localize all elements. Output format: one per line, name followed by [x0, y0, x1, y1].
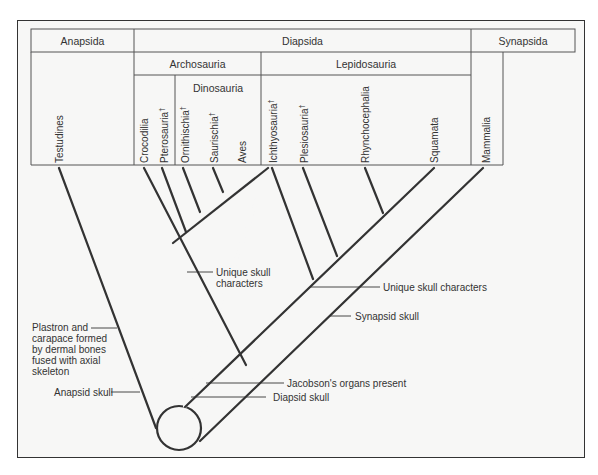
taxon-rhynchocephalia: Rhynchocephalia: [360, 86, 371, 163]
taxon-saurischia: Saurischia†: [208, 112, 220, 163]
group-dinosauria: Dinosauria: [175, 82, 261, 94]
note-diapsid-skull: Diapsid skull: [273, 392, 329, 403]
note-lepidosaur-skull: Unique skull characters: [383, 282, 487, 293]
group-lepidosauria: Lepidosauria: [261, 58, 471, 70]
taxon-testudines: Testudines: [54, 115, 65, 163]
taxon-ichthyosauria: Ichthyosauria†: [267, 100, 279, 163]
note-synapsid-skull: Synapsid skull: [355, 311, 419, 322]
branch-ichthyosauria: [272, 168, 313, 279]
note-plastron: Plastron and carapace formed by dermal b…: [32, 322, 107, 377]
branch-pterosauria: [162, 168, 186, 232]
branch-synapsid-mammalia: [200, 168, 483, 441]
taxon-pterosauria: Pterosauria†: [158, 108, 170, 163]
taxon-aves: Aves: [237, 141, 248, 163]
cladogram-branches: [0, 0, 598, 475]
branch-plesiosauria: [303, 168, 337, 256]
note-archosaur-skull: Unique skull characters: [216, 267, 270, 289]
group-synapsida: Synapsida: [471, 35, 575, 47]
group-diapsida: Diapsida: [134, 35, 471, 47]
branch-saurischia: [213, 168, 223, 192]
note-jacobson: Jacobson's organs present: [287, 378, 406, 389]
taxon-crocodilia: Crocodilia: [139, 119, 150, 163]
branch-rhynchocephalia: [365, 168, 383, 213]
taxon-squamata: Squamata: [429, 117, 440, 163]
group-archosauria: Archosauria: [134, 58, 261, 70]
taxon-plesiosauria: Plesiosauria†: [298, 105, 310, 163]
branch-ornithischia: [183, 168, 200, 212]
taxon-ornithischia: Ornithischia†: [179, 106, 191, 163]
note-anapsid-skull: Anapsid skull: [54, 387, 113, 398]
taxon-mammalia: Mammalia: [481, 117, 492, 163]
group-anapsida: Anapsida: [31, 35, 134, 47]
